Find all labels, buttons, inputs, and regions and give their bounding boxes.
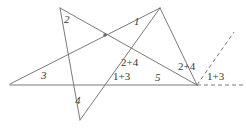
angle-label-4: 4 — [75, 95, 81, 106]
angle-label-sum-2-4-center: 2+4 — [121, 57, 138, 68]
angle-label-1: 1 — [134, 16, 140, 27]
angle-label-sum-1-3-right: 1+3 — [207, 71, 224, 82]
angle-label-3: 3 — [41, 70, 47, 81]
edge-topright-to-right — [160, 8, 197, 85]
star-edges — [10, 8, 197, 120]
edge-bottom-to-topright — [80, 8, 160, 120]
angle-label-sum-2-4-right: 2+4 — [178, 61, 195, 72]
angle-label-5: 5 — [155, 72, 161, 83]
geometry-figure: 2 1 3 4 5 2+4 1+3 2+4 1+3 — [0, 0, 246, 128]
angle-label-2: 2 — [64, 14, 70, 25]
angle-label-sum-1-3-center: 1+3 — [113, 71, 130, 82]
center-intersection-dot — [103, 33, 107, 37]
